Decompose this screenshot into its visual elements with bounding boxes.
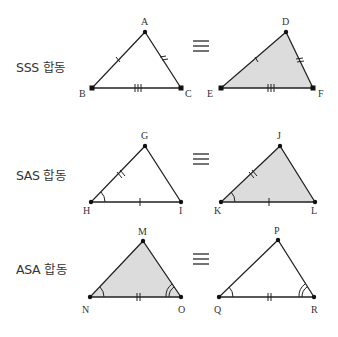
congruence-diagram: A B C ≡ D E F G H I	[0, 0, 338, 337]
triangle-jkl: J K L	[214, 130, 317, 216]
vertex-q: Q	[214, 304, 222, 315]
vertex-k: K	[214, 205, 222, 216]
vertex-o: O	[178, 304, 185, 315]
vertex-p: P	[274, 225, 280, 236]
triangle-abc: A B C	[79, 16, 192, 99]
vertex-d: D	[282, 16, 289, 27]
vertex-r: R	[311, 304, 318, 315]
vertex-g: G	[141, 130, 148, 141]
vertex-b: B	[79, 88, 86, 99]
equiv-icon-2	[193, 154, 209, 164]
vertex-h: H	[83, 205, 90, 216]
vertex-e: E	[207, 88, 213, 99]
triangle-mno: M N O	[82, 226, 185, 315]
vertex-c: C	[185, 88, 192, 99]
vertex-n: N	[82, 304, 89, 315]
vertex-l: L	[311, 205, 317, 216]
triangle-ghi: G H I	[83, 130, 183, 216]
equiv-icon-3	[193, 254, 209, 264]
vertex-m: M	[138, 226, 147, 237]
vertex-a: A	[141, 16, 149, 27]
vertex-j: J	[277, 130, 281, 141]
vertex-i: I	[179, 205, 182, 216]
triangle-def: D E F	[207, 16, 324, 99]
equiv-icon-1	[193, 41, 209, 51]
vertex-f: F	[318, 88, 324, 99]
triangle-pqr: P Q R	[214, 225, 318, 315]
